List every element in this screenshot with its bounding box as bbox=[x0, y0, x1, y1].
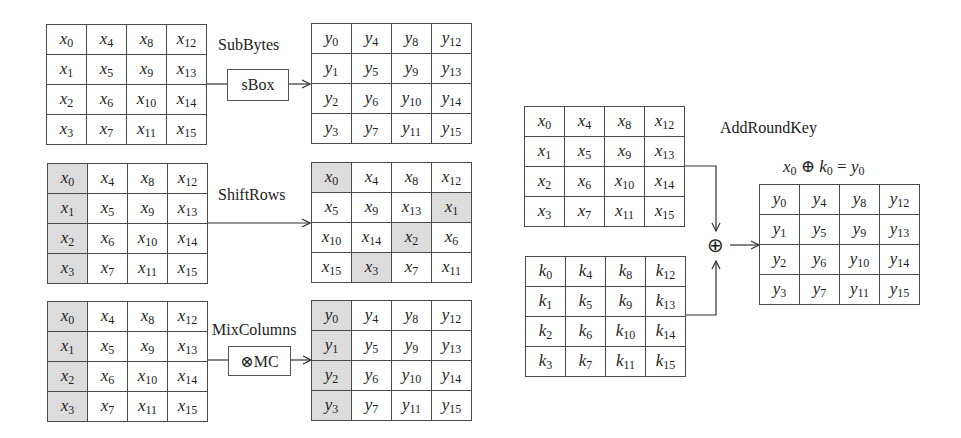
grid-cell: x3 bbox=[525, 197, 565, 227]
grid-cell: x7 bbox=[88, 392, 128, 422]
grid-cell: x11 bbox=[432, 253, 472, 283]
grid-cell: y2 bbox=[312, 84, 352, 114]
grid-row: y0y4y8y12 bbox=[760, 185, 920, 215]
grid-cell: x3 bbox=[48, 392, 88, 422]
grid-cell: x9 bbox=[352, 193, 392, 223]
grid-cell: k14 bbox=[646, 317, 686, 347]
grid-cell: y8 bbox=[392, 24, 432, 54]
grid-cell: x12 bbox=[645, 107, 685, 137]
grid-cell: y13 bbox=[432, 331, 472, 361]
grid-row: x2x6x10x14 bbox=[525, 167, 685, 197]
grid-cell: x15 bbox=[167, 115, 207, 145]
grid-cell: y14 bbox=[880, 245, 920, 275]
mixcolumns-input-grid: x0x4x8x12x1x5x9x13x2x6x10x14x3x7x11x15 bbox=[47, 301, 208, 422]
grid-cell: x3 bbox=[47, 115, 87, 145]
grid-cell: x9 bbox=[127, 55, 167, 85]
grid-row: y1y5y9y13 bbox=[760, 215, 920, 245]
grid-cell: k7 bbox=[566, 347, 606, 377]
sbox-box: sBox bbox=[227, 69, 289, 101]
grid-cell: y3 bbox=[760, 275, 800, 305]
addroundkey-label: AddRoundKey bbox=[720, 119, 817, 137]
grid-cell: x2 bbox=[47, 85, 87, 115]
mc-box: ⊗MC bbox=[228, 346, 291, 376]
grid-cell: y3 bbox=[312, 114, 352, 144]
grid-cell: y15 bbox=[880, 275, 920, 305]
grid-row: y1y5y9y13 bbox=[312, 54, 472, 84]
grid-cell: x0 bbox=[312, 163, 352, 193]
grid-row: x3x7x11x15 bbox=[525, 197, 685, 227]
grid-cell: x15 bbox=[168, 254, 208, 284]
grid-row: y3y7y11y15 bbox=[760, 275, 920, 305]
grid-row: x0x4x8x12 bbox=[47, 25, 207, 55]
grid-cell: x7 bbox=[565, 197, 605, 227]
grid-row: x2x6x10x14 bbox=[47, 85, 207, 115]
grid-row: x1x5x9x13 bbox=[48, 194, 208, 224]
grid-row: y2y6y10y14 bbox=[760, 245, 920, 275]
grid-cell: y5 bbox=[800, 215, 840, 245]
grid-cell: y13 bbox=[432, 54, 472, 84]
grid-cell: y9 bbox=[392, 331, 432, 361]
grid-cell: x9 bbox=[128, 194, 168, 224]
grid-cell: x12 bbox=[167, 25, 207, 55]
xor-equation: x0 ⊕ k0 = y0 bbox=[783, 156, 864, 179]
grid-row: y3y7y11y15 bbox=[312, 114, 472, 144]
grid-cell: y7 bbox=[352, 114, 392, 144]
grid-cell: k12 bbox=[646, 257, 686, 287]
grid-cell: y11 bbox=[392, 114, 432, 144]
grid-cell: y7 bbox=[800, 275, 840, 305]
grid-cell: x5 bbox=[312, 193, 352, 223]
grid-cell: y1 bbox=[760, 215, 800, 245]
grid-cell: x0 bbox=[48, 302, 88, 332]
grid-cell: x5 bbox=[88, 194, 128, 224]
grid-cell: y7 bbox=[352, 391, 392, 421]
grid-cell: y3 bbox=[312, 391, 352, 421]
mixcolumns-label: MixColumns bbox=[212, 321, 296, 339]
grid-cell: x5 bbox=[87, 55, 127, 85]
grid-cell: y6 bbox=[352, 84, 392, 114]
grid-row: x10x14x2x6 bbox=[312, 223, 472, 253]
grid-cell: x11 bbox=[127, 115, 167, 145]
grid-row: x2x6x10x14 bbox=[48, 224, 208, 254]
grid-cell: x14 bbox=[645, 167, 685, 197]
subbytes-label: SubBytes bbox=[218, 36, 279, 54]
grid-cell: x4 bbox=[87, 25, 127, 55]
grid-cell: x14 bbox=[168, 224, 208, 254]
grid-cell: x10 bbox=[128, 224, 168, 254]
grid-cell: y15 bbox=[432, 391, 472, 421]
grid-cell: y4 bbox=[352, 301, 392, 331]
xor-icon: ⊕ bbox=[707, 235, 724, 255]
grid-cell: x11 bbox=[605, 197, 645, 227]
grid-cell: y14 bbox=[432, 361, 472, 391]
grid-cell: k15 bbox=[646, 347, 686, 377]
grid-cell: x0 bbox=[47, 25, 87, 55]
grid-cell: x5 bbox=[88, 332, 128, 362]
grid-cell: x8 bbox=[605, 107, 645, 137]
grid-cell: x6 bbox=[88, 362, 128, 392]
grid-cell: y13 bbox=[880, 215, 920, 245]
grid-cell: x2 bbox=[525, 167, 565, 197]
grid-cell: y5 bbox=[352, 54, 392, 84]
grid-cell: x3 bbox=[352, 253, 392, 283]
grid-row: x3x7x11x15 bbox=[48, 392, 208, 422]
grid-cell: x13 bbox=[168, 332, 208, 362]
grid-row: y3y7y11y15 bbox=[312, 391, 472, 421]
grid-cell: x6 bbox=[88, 224, 128, 254]
grid-row: x1x5x9x13 bbox=[47, 55, 207, 85]
grid-cell: x13 bbox=[167, 55, 207, 85]
grid-row: k1k5k9k13 bbox=[526, 287, 686, 317]
grid-row: x2x6x10x14 bbox=[48, 362, 208, 392]
grid-row: y0y4y8y12 bbox=[312, 301, 472, 331]
grid-cell: x10 bbox=[312, 223, 352, 253]
grid-row: x0x4x8x12 bbox=[48, 302, 208, 332]
grid-cell: y1 bbox=[312, 54, 352, 84]
grid-cell: x4 bbox=[352, 163, 392, 193]
grid-cell: x8 bbox=[127, 25, 167, 55]
grid-cell: k13 bbox=[646, 287, 686, 317]
grid-cell: y0 bbox=[312, 301, 352, 331]
grid-cell: x12 bbox=[168, 164, 208, 194]
shiftrows-output-grid: x0x4x8x12x5x9x13x1x10x14x2x6x15x3x7x11 bbox=[311, 162, 472, 283]
grid-cell: x6 bbox=[432, 223, 472, 253]
grid-cell: y1 bbox=[312, 331, 352, 361]
grid-cell: x14 bbox=[352, 223, 392, 253]
grid-row: x0x4x8x12 bbox=[48, 164, 208, 194]
